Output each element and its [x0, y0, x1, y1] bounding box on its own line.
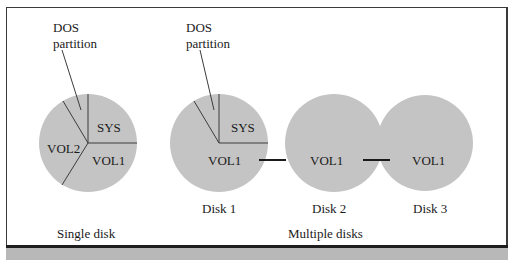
disk3-seg-vol1: VOL1 — [412, 153, 445, 168]
disk2-label: Disk 2 — [312, 201, 346, 216]
disk1-seg-sys: SYS — [231, 120, 255, 135]
disk2-circle — [285, 94, 383, 192]
disk3-label: Disk 3 — [413, 201, 447, 216]
disk2-seg-vol1: VOL1 — [310, 153, 343, 168]
multi-callout-line1: DOS — [186, 20, 212, 35]
single-seg-vol1: VOL1 — [92, 153, 125, 168]
disk1-seg-vol1: VOL1 — [208, 153, 241, 168]
disk3-circle — [377, 95, 473, 191]
single-callout-line2: partition — [53, 36, 97, 51]
single-callout-line1: DOS — [53, 20, 79, 35]
multi-callout-line2: partition — [186, 36, 230, 51]
single-disk-caption: Single disk — [57, 226, 115, 241]
disk1-label: Disk 1 — [202, 201, 236, 216]
single-seg-vol2: VOL2 — [47, 141, 80, 156]
single-disk-pie — [39, 50, 137, 192]
multiple-disks-caption: Multiple disks — [288, 226, 363, 241]
single-seg-sys: SYS — [97, 120, 121, 135]
